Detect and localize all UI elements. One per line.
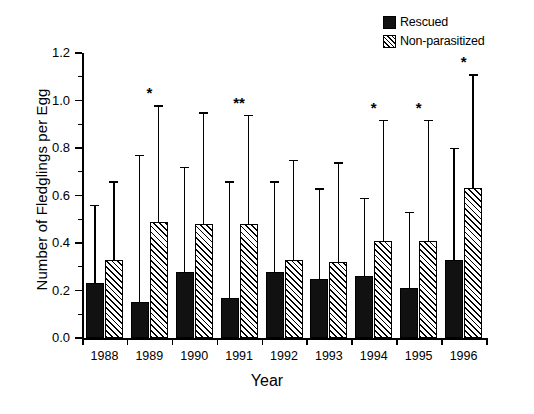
error-bar <box>319 188 320 278</box>
error-bar-cap <box>180 167 189 168</box>
x-axis-tick-label: 1996 <box>434 349 494 363</box>
error-bar-cap <box>109 181 118 182</box>
error-bar <box>293 160 294 260</box>
significance-marker: * <box>134 88 164 98</box>
error-bar-cap <box>289 160 298 161</box>
error-bar-cap <box>469 74 478 75</box>
bar-non-parasitized <box>374 241 392 338</box>
bar-rescued <box>86 283 104 338</box>
x-axis-tick <box>262 338 264 345</box>
y-axis-tick-label: 0.6 <box>30 188 70 203</box>
error-bar-cap <box>199 112 208 113</box>
error-bar-cap <box>450 148 459 149</box>
x-axis-tick <box>351 338 353 345</box>
bar-rescued <box>400 288 418 338</box>
x-axis-tick <box>396 338 398 345</box>
y-axis-minor-tick <box>78 171 82 172</box>
x-axis-tick <box>82 338 84 345</box>
error-bar <box>428 120 429 241</box>
x-axis-tick <box>127 338 129 345</box>
y-axis-minor-tick <box>78 266 82 267</box>
bar-non-parasitized <box>419 241 437 338</box>
bar-non-parasitized <box>150 222 168 338</box>
legend-item-non-parasitized: Non-parasitized <box>383 33 528 49</box>
error-bar-cap <box>90 205 99 206</box>
bar-rescued <box>266 272 284 339</box>
significance-marker: * <box>404 103 434 113</box>
bar-non-parasitized <box>195 224 213 338</box>
error-bar <box>248 115 249 224</box>
significance-marker: * <box>359 103 389 113</box>
y-axis-tick <box>75 52 82 54</box>
x-axis-title: Year <box>0 372 534 390</box>
y-axis-tick <box>75 147 82 149</box>
y-axis-tick-label: 0.2 <box>30 283 70 298</box>
error-bar <box>158 105 159 221</box>
bar-rescued <box>310 279 328 338</box>
y-axis-line <box>82 53 84 338</box>
chart-legend: Rescued Non-parasitized <box>383 14 528 52</box>
error-bar <box>383 120 384 241</box>
error-bar <box>203 112 204 224</box>
error-bar <box>94 205 95 283</box>
x-axis-tick <box>306 338 308 345</box>
y-axis-tick <box>75 242 82 244</box>
error-bar <box>364 198 365 276</box>
error-bar <box>184 167 185 272</box>
error-bar <box>472 74 473 188</box>
error-bar <box>274 181 275 271</box>
error-bar <box>338 162 339 262</box>
error-bar-cap <box>315 188 324 189</box>
error-bar-cap <box>334 162 343 163</box>
bar-rescued <box>221 298 239 338</box>
error-bar <box>409 212 410 288</box>
y-axis-tick <box>75 290 82 292</box>
legend-swatch-hatched-square <box>383 35 396 48</box>
significance-marker: ** <box>224 98 254 108</box>
error-bar-cap <box>360 198 369 199</box>
y-axis-minor-tick <box>78 76 82 77</box>
error-bar-cap <box>244 115 253 116</box>
error-bar-cap <box>225 181 234 182</box>
y-axis-tick <box>75 100 82 102</box>
error-bar-cap <box>405 212 414 213</box>
bar-non-parasitized <box>105 260 123 338</box>
error-bar-cap <box>154 105 163 106</box>
x-axis-tick <box>172 338 174 345</box>
error-bar-cap <box>424 120 433 121</box>
bar-rescued <box>445 260 463 338</box>
bar-rescued <box>355 276 373 338</box>
y-axis-tick-label: 1.2 <box>30 45 70 60</box>
y-axis-tick-label: 0.8 <box>30 140 70 155</box>
error-bar-cap <box>379 120 388 121</box>
y-axis-minor-tick <box>78 219 82 220</box>
error-bar <box>113 181 114 259</box>
error-bar-cap <box>135 155 144 156</box>
bar-rescued <box>131 302 149 338</box>
figure-bar-chart: Rescued Non-parasitized Number of Fledgl… <box>0 0 534 414</box>
y-axis-tick-label: 1.0 <box>30 93 70 108</box>
legend-swatch-solid-black-square <box>383 16 396 29</box>
bar-rescued <box>176 272 194 339</box>
y-axis-minor-tick <box>78 124 82 125</box>
significance-marker: * <box>449 57 479 67</box>
error-bar <box>229 181 230 297</box>
bar-non-parasitized <box>285 260 303 338</box>
bar-non-parasitized <box>240 224 258 338</box>
error-bar <box>139 155 140 302</box>
plot-area: 0.00.20.40.60.81.01.219881989*19901991**… <box>82 53 486 338</box>
bar-non-parasitized <box>464 188 482 338</box>
error-bar <box>453 148 454 260</box>
error-bar-cap <box>270 181 279 182</box>
legend-label-non-parasitized: Non-parasitized <box>400 35 485 47</box>
y-axis-tick <box>75 195 82 197</box>
y-axis-minor-tick <box>78 314 82 315</box>
legend-item-rescued: Rescued <box>383 14 528 30</box>
x-axis-line <box>82 338 486 340</box>
y-axis-tick-label: 0.0 <box>30 330 70 345</box>
bar-non-parasitized <box>329 262 347 338</box>
legend-label-rescued: Rescued <box>400 16 448 28</box>
y-axis-tick-label: 0.4 <box>30 235 70 250</box>
x-axis-tick <box>217 338 219 345</box>
x-axis-tick <box>441 338 443 345</box>
